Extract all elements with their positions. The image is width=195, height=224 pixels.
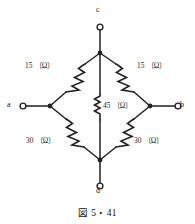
wire-top-right-upper xyxy=(100,53,116,64)
wire-bot-left-lower xyxy=(84,147,100,160)
figure-caption: 図 5・41 xyxy=(0,205,195,219)
terminal-c-node xyxy=(97,24,103,30)
wire-top-left-lower xyxy=(50,92,66,106)
resistor-symbol-bot-right xyxy=(116,119,134,147)
wire-bot-left-upper xyxy=(50,106,66,119)
wire-bot-right-lower xyxy=(100,147,116,160)
junction-node-left xyxy=(48,104,53,109)
terminal-label-b: b xyxy=(180,101,184,109)
terminal-a-node xyxy=(20,103,26,109)
junction-node-top xyxy=(98,51,103,56)
resistor-symbol-bot-left xyxy=(66,119,84,147)
resistor-symbol-top-right xyxy=(116,64,134,92)
resistor-label-top-right: 15 〔Ω〕 xyxy=(137,62,166,69)
wire-bot-right-upper xyxy=(134,106,150,119)
resistor-symbol-top-left xyxy=(66,64,85,92)
wire-top-right-lower xyxy=(134,92,150,106)
resistor-label-center: 45 〔Ω〕 xyxy=(103,102,132,109)
terminal-label-c: c xyxy=(96,6,100,14)
wire-top-left-upper xyxy=(85,53,100,64)
figure-container: 15 〔Ω〕 15 〔Ω〕 45 〔Ω〕 30 〔Ω〕 30 〔Ω〕 c a b… xyxy=(0,0,195,224)
terminal-label-a: a xyxy=(7,101,11,109)
resistor-label-bot-right: 30 〔Ω〕 xyxy=(134,137,163,144)
junction-node-bottom xyxy=(98,158,103,163)
circuit-schematic xyxy=(0,0,195,200)
terminal-label-d: d xyxy=(96,187,100,195)
resistor-symbol-center xyxy=(95,94,101,120)
resistor-label-top-left: 15 〔Ω〕 xyxy=(25,62,54,69)
junction-node-right xyxy=(148,104,153,109)
resistor-label-bot-left: 30 〔Ω〕 xyxy=(26,137,55,144)
